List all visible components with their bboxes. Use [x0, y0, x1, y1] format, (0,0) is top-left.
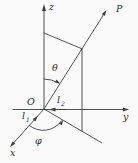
l2-label: l [57, 94, 60, 105]
origin-label: O [27, 96, 35, 107]
spherical-coordinates-figure: z P O y x θ φ l 1 l 2 [0, 0, 138, 163]
spherical-coordinates-diagram: z P O y x θ φ l 1 l 2 [0, 0, 138, 163]
theta-arc-arrowhead-icon [55, 80, 60, 84]
l1-label-subscript: 1 [26, 116, 30, 123]
l2-arrowhead-icon [49, 108, 56, 112]
l1-label: l [22, 110, 25, 121]
theta-label: θ [52, 62, 58, 73]
z-axis-arrowhead-icon [42, 4, 46, 11]
l2-label-subscript: 2 [60, 100, 65, 107]
x-axis-label: x [10, 147, 16, 158]
phi-arc [29, 121, 61, 131]
ray-op-arrowhead-icon [102, 10, 107, 16]
xy-projection-line [44, 109, 102, 143]
point-p-label: P [115, 3, 123, 14]
z-axis-label: z [48, 1, 55, 12]
y-axis-label: y [122, 111, 129, 122]
phi-label: φ [35, 135, 42, 146]
upper-slant-segment [44, 33, 82, 49]
